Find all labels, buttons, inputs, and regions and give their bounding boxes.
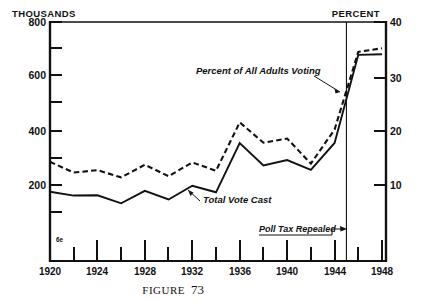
y-tick-label-200: 200 [28,179,46,191]
line-chart: THOUSANDS PERCENT 800 600 400 200 6e [0,0,430,301]
figure-caption-number: 73 [191,282,204,297]
x-tick-label-1924: 1924 [86,266,109,277]
annotation-percent-adults-voting: Percent of All Adults Voting [196,65,321,76]
plot-frame [49,21,387,262]
figure-caption-label: FIGURE [142,284,185,296]
x-tick-label-1928: 1928 [134,266,157,277]
right-axis-unit-label: PERCENT [332,8,380,19]
x-axis-ticks [50,240,382,261]
leader-arrow-total-vote-cast [188,190,194,196]
x-tick-label-1948: 1948 [371,266,394,277]
annotation-total-vote-cast: Total Vote Cast [203,194,272,205]
right-axis-ticks [374,22,386,185]
annotation-poll-tax-repealed: Poll Tax Repealed [259,224,336,234]
figure-73-container: THOUSANDS PERCENT 800 600 400 200 6e [0,0,430,301]
y2-tick-label-10: 10 [390,179,402,191]
y2-tick-label-20: 20 [390,125,402,137]
left-axis-ticks [50,22,62,212]
x-tick-label-1944: 1944 [324,266,347,277]
x-tick-label-1936: 1936 [229,266,252,277]
y2-tick-label-40: 40 [390,16,402,28]
x-tick-label-1920: 1920 [39,266,62,277]
y-tick-label-400: 400 [28,125,46,137]
y-tick-label-800: 800 [28,16,46,28]
x-tick-label-1940: 1940 [276,266,299,277]
y-tick-label-600: 600 [28,69,46,81]
x-tick-label-1932: 1932 [181,266,204,277]
origin-marker-label: 6e [56,236,64,243]
y2-tick-label-30: 30 [390,72,402,84]
series-line-total-vote-cast [50,54,382,203]
